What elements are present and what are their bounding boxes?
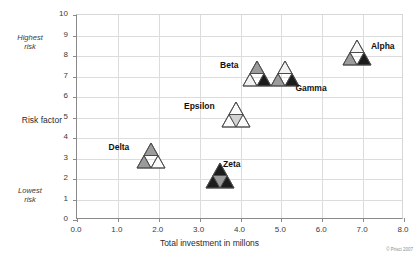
x-axis-tick xyxy=(281,218,282,222)
x-axis-tick xyxy=(200,218,201,222)
y-axis-tick-label: 6 xyxy=(52,92,68,100)
x-axis-tick xyxy=(404,218,405,222)
data-point-label-alpha: Alpha xyxy=(371,42,395,51)
x-axis-tick xyxy=(159,218,160,222)
x-axis-tick xyxy=(363,218,364,222)
y-axis-tick xyxy=(73,97,77,98)
data-point-label-zeta: Zeta xyxy=(223,160,240,169)
y-axis-high-line1: Highest xyxy=(17,33,42,42)
gridline-horizontal xyxy=(77,77,402,78)
y-axis-high-line2: risk xyxy=(24,42,36,51)
y-axis-tick-label: 4 xyxy=(52,133,68,141)
gridline-horizontal xyxy=(77,200,402,201)
x-axis-title: Total investment in millons xyxy=(0,238,419,248)
y-axis-tick-label: 0 xyxy=(52,215,68,223)
x-axis-tick-label: 2.0 xyxy=(144,226,172,234)
y-axis-tick xyxy=(73,56,77,57)
x-axis-tick xyxy=(241,218,242,222)
y-axis-tick xyxy=(73,77,77,78)
x-axis-tick-label: 7.0 xyxy=(348,226,376,234)
gridline-horizontal xyxy=(77,97,402,98)
data-point-label-delta: Delta xyxy=(109,143,130,152)
y-axis-tick xyxy=(73,200,77,201)
gridline-vertical xyxy=(159,15,160,218)
data-point-marker-delta xyxy=(136,142,166,169)
x-axis-tick-label: 1.0 xyxy=(103,226,131,234)
x-axis-tick-label: 4.0 xyxy=(226,226,254,234)
copyright-credit: © Prisci 2007 xyxy=(386,247,413,252)
data-point-label-epsilon: Epsilon xyxy=(184,102,215,111)
chart-container: Highest risk Lowest risk Risk factor 012… xyxy=(0,0,419,265)
plot-area: AlphaBetaGammaEpsilonDeltaZeta xyxy=(76,14,403,219)
y-axis-tick xyxy=(73,138,77,139)
y-axis-tick-label: 5 xyxy=(52,113,68,121)
x-axis-tick-label: 0.0 xyxy=(62,226,90,234)
x-axis-tick xyxy=(77,218,78,222)
gridline-vertical xyxy=(118,15,119,218)
y-axis-tick xyxy=(73,159,77,160)
x-axis-tick-label: 6.0 xyxy=(307,226,335,234)
gridline-horizontal xyxy=(77,179,402,180)
y-axis-low-line2: risk xyxy=(24,195,36,204)
gridline-horizontal xyxy=(77,138,402,139)
x-axis-tick-label: 8.0 xyxy=(389,226,417,234)
x-axis-tick-label: 5.0 xyxy=(266,226,294,234)
y-axis-tick xyxy=(73,118,77,119)
y-axis-tick xyxy=(73,179,77,180)
y-axis-tick-label: 9 xyxy=(52,31,68,39)
data-point-marker-epsilon xyxy=(221,101,251,128)
gridline-vertical xyxy=(281,15,282,218)
y-axis-tick-label: 8 xyxy=(52,51,68,59)
y-axis-tick-label: 7 xyxy=(52,72,68,80)
gridline-vertical xyxy=(200,15,201,218)
y-axis-tick xyxy=(73,220,77,221)
gridline-horizontal xyxy=(77,36,402,37)
x-axis-tick xyxy=(322,218,323,222)
data-point-marker-beta xyxy=(242,60,272,87)
y-axis-tick xyxy=(73,15,77,16)
data-point-marker-alpha xyxy=(342,39,372,66)
x-axis-tick-label: 3.0 xyxy=(185,226,213,234)
y-axis-high-annotation: Highest risk xyxy=(6,33,54,51)
data-point-label-beta: Beta xyxy=(220,61,238,70)
y-axis-tick xyxy=(73,36,77,37)
data-point-label-gamma: Gamma xyxy=(295,84,326,93)
y-axis-tick-label: 3 xyxy=(52,154,68,162)
y-axis-tick-label: 1 xyxy=(52,195,68,203)
y-axis-tick-label: 10 xyxy=(52,10,68,18)
y-axis-low-line1: Lowest xyxy=(18,186,42,195)
y-axis-tick-label: 2 xyxy=(52,174,68,182)
gridline-vertical xyxy=(322,15,323,218)
x-axis-tick xyxy=(118,218,119,222)
y-axis-low-annotation: Lowest risk xyxy=(6,186,54,204)
